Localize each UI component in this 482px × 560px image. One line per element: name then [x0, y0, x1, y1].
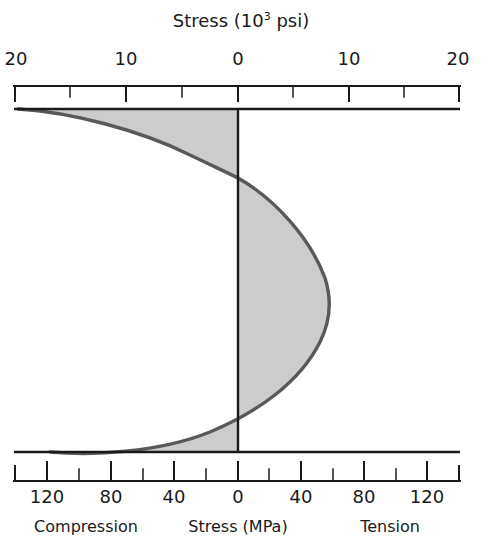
stress-distribution-chart: Stress (103 psi) 20 10 0 10 20 120 80 40…: [0, 0, 482, 560]
stress-shaded-area: [18, 109, 329, 453]
top-axis-ruler: [14, 86, 460, 101]
bottom-axis-ruler: [14, 462, 460, 481]
plot-svg: [0, 0, 482, 560]
